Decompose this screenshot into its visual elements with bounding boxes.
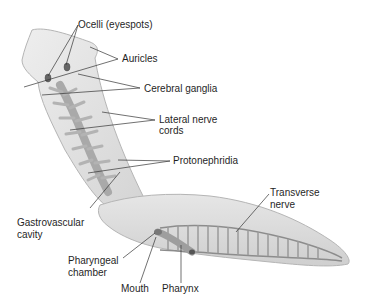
planarian-illustration xyxy=(0,0,366,302)
label-auricles: Auricles xyxy=(122,53,158,64)
label-transverse-nerve-line2: nerve xyxy=(270,199,295,210)
pharyngeal-chamber xyxy=(154,229,162,235)
label-pharyngeal-chamber-line2: chamber xyxy=(68,267,107,278)
ocellus-right xyxy=(64,63,70,71)
label-lateral-nerve-cords-line2: cords xyxy=(159,125,183,136)
worm-tail-body xyxy=(98,194,349,266)
label-gastrovascular-cavity-line1: Gastrovascular xyxy=(17,217,84,228)
label-ocelli: Ocelli (eyespots) xyxy=(78,19,152,30)
label-pharyngeal-chamber-line1: Pharyngeal xyxy=(68,255,119,266)
label-gastrovascular-cavity-line2: cavity xyxy=(17,229,43,240)
label-transverse-nerve-line1: Transverse xyxy=(270,187,320,198)
label-cerebral-ganglia: Cerebral ganglia xyxy=(144,83,217,94)
planarian-diagram: Ocelli (eyespots) Auricles Cerebral gang… xyxy=(0,0,366,302)
label-lateral-nerve-cords-line1: Lateral nerve xyxy=(159,114,217,125)
label-pharynx: Pharynx xyxy=(162,283,199,294)
pharynx-opening xyxy=(189,250,195,255)
label-mouth: Mouth xyxy=(121,283,149,294)
label-protonephridia: Protonephridia xyxy=(173,155,238,166)
